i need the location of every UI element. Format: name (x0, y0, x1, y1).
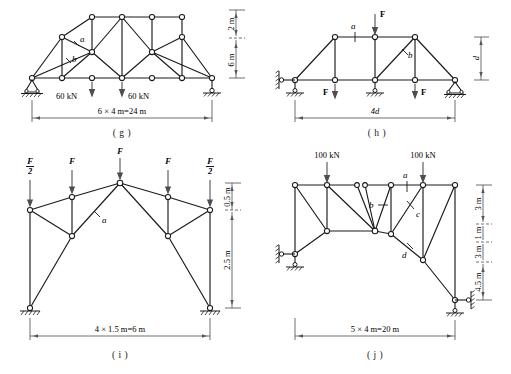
panel-h-support-right (444, 82, 466, 98)
panel-h-leaders (355, 32, 408, 55)
panel-h-support-middle (366, 82, 384, 97)
panel-i-nodes (27, 180, 212, 310)
panel-j-load-label-1: 100 kN (314, 150, 339, 160)
panel-g-member-a: a (80, 34, 85, 44)
panel-j-height-45m: 4.5 m (473, 272, 483, 292)
panel-h-caption: ( h ) (347, 128, 407, 138)
panel-j-loads (325, 162, 426, 182)
panel-i: F2 F F F F2 a 0.5 m 2.5 m (0, 148, 256, 354)
panel-g-loads (90, 82, 125, 96)
panel-h-load-top (373, 14, 378, 34)
panel-h-span-label: 4d (371, 106, 380, 116)
panel-g-support-right (203, 80, 221, 97)
panel-h-member-b: b (408, 50, 413, 60)
panel-h-load-label-top: F (380, 9, 385, 19)
panel-i-drawing: F2 F F F F2 a 0.5 m 2.5 m (0, 148, 256, 354)
panel-i-height-25m: 2.5 m (222, 250, 232, 270)
panel-g-member-b: b (72, 54, 77, 64)
panel-j-member-b: b (369, 200, 374, 210)
panel-i-load-label-2: F (68, 156, 75, 166)
panel-g-members (32, 17, 212, 78)
panel-g-support-left (21, 80, 43, 97)
panel-j-member-d: d (402, 250, 407, 260)
panel-j-height-1m: 1 m (473, 226, 483, 239)
panel-i-support-left (20, 311, 40, 315)
panel-h: F F F a b d (255, 0, 511, 132)
panel-h-support-left-base (286, 82, 304, 97)
panel-i-span-label: 4 × 1.5 m=6 m (95, 324, 146, 334)
panel-h-height-d: d (471, 55, 481, 60)
panel-i-load-label-1: F2 (26, 156, 34, 176)
panel-j-nodes (292, 182, 457, 302)
panel-g: 60 kN 60 kN a b 2 m 6 m (0, 0, 256, 132)
panel-g-load-label-2: 60 kN (128, 91, 149, 101)
panel-j-member-c: c (416, 209, 420, 219)
panel-i-height-05m: 0.5 m (222, 187, 232, 207)
panel-i-caption: ( i ) (90, 350, 150, 360)
panel-j-drawing: 100 kN 100 kN a b c d 3 m (255, 148, 511, 354)
panel-h-drawing: F F F a b d (255, 0, 511, 132)
panel-i-support-right (200, 311, 220, 315)
panel-j-caption: ( j ) (345, 350, 405, 360)
panel-j-span-label: 5 × 4 m=20 m (351, 324, 400, 334)
panel-h-support-wall (276, 71, 296, 90)
panel-i-load-label-3: F (116, 148, 123, 156)
panel-h-members (295, 37, 455, 80)
panel-j-support-left (276, 245, 305, 271)
panel-j: 100 kN 100 kN a b c d 3 m (255, 148, 511, 354)
panel-h-load-label-left: F (323, 87, 328, 97)
figure-sheet: 60 kN 60 kN a b 2 m 6 m (0, 0, 511, 374)
panel-i-leader-a (94, 211, 100, 217)
panel-i-member-a: a (102, 215, 107, 225)
panel-g-height-2m: 2 m (226, 17, 236, 30)
panel-g-drawing: 60 kN 60 kN a b 2 m 6 m (0, 0, 256, 132)
panel-h-load-label-right: F (421, 87, 426, 97)
panel-g-load-label-1: 60 kN (56, 91, 77, 101)
panel-j-member-a: a (403, 170, 408, 180)
panel-i-load-label-4: F (164, 156, 171, 166)
panel-g-caption: ( g ) (92, 128, 152, 138)
panel-g-span-label: 6 × 4 m=24 m (98, 106, 147, 116)
panel-j-height-3m-top: 3 m (473, 197, 483, 210)
panel-j-load-label-2: 100 kN (410, 150, 435, 160)
panel-j-members (295, 185, 455, 300)
panel-g-height-6m: 6 m (226, 53, 236, 66)
panel-j-height-3m-mid: 3 m (473, 245, 483, 258)
panel-i-members (30, 183, 210, 308)
panel-h-member-a: a (351, 21, 356, 31)
